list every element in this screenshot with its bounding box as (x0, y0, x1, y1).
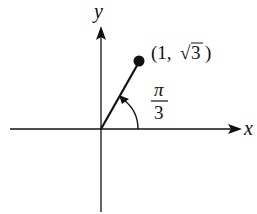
x-axis-label: x (243, 117, 253, 139)
angle-arc (124, 100, 138, 129)
y-axis-label: y (92, 0, 103, 23)
angle-denominator: 3 (154, 102, 164, 123)
polar-diagram: x y (1, √ 3 ) π 3 (0, 0, 257, 214)
point-label-radicand: 3 (191, 42, 201, 63)
point-label-open: (1, (151, 42, 172, 64)
angle-numerator: π (154, 79, 164, 100)
sqrt-symbol-icon: √ (180, 42, 191, 63)
point-label-close: ) (205, 42, 211, 64)
point-marker (134, 56, 145, 67)
